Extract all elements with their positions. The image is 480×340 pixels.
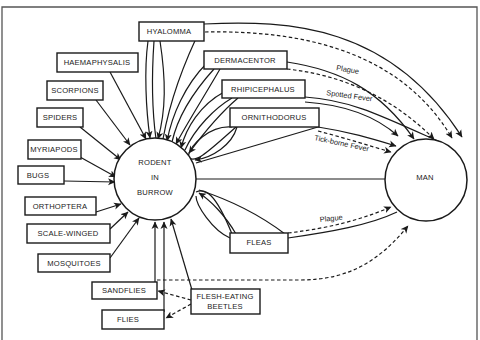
label-scale-winged: SCALE-WINGED (37, 229, 98, 238)
box-myriapods: MYRIAPODS (28, 140, 81, 159)
label-scorpions: SCORPIONS (51, 86, 98, 95)
label-haemaphysalis: HAEMAPHYSALIS (64, 58, 131, 67)
box-dermacentor: DERMACENTOR (204, 51, 287, 69)
label-myriapods: MYRIAPODS (30, 145, 77, 154)
loop-rodent-to-hyalomma (153, 41, 156, 139)
arrow-haemaphysalis (110, 72, 146, 139)
loop-rodent-to-fleas (196, 191, 232, 234)
label-orthoptera: ORTHOPTERA (33, 202, 88, 211)
arrow-beetles-to-flies (166, 304, 191, 318)
arrow-flesh-eating-beetles (171, 219, 192, 290)
label-hyalomma: HYALOMMA (147, 27, 192, 36)
box-spiders: SPIDERS (37, 108, 83, 127)
box-ornithodorus: ORNITHODORUS (230, 108, 319, 127)
arrow-dermacentor-to-rodent-2 (176, 69, 220, 144)
dashed-dermacentor-to-man (287, 69, 434, 139)
box-flies: FLIES (102, 310, 164, 329)
label-flesh-eating-beetles-line2: BEETLES (207, 302, 243, 311)
arrow-fleas-to-rodent (199, 193, 236, 234)
box-scorpions: SCORPIONS (47, 81, 103, 100)
label-spiders: SPIDERS (43, 113, 78, 122)
arrow-mosquitoes (110, 218, 139, 258)
box-hyalomma: HYALOMMA (139, 22, 204, 41)
label-dermacentor: DERMACENTOR (214, 56, 276, 65)
rodent-node: RODENT IN BURROW (114, 138, 196, 220)
box-bugs: BUGS (18, 166, 64, 184)
arrow-scale-winged (110, 212, 128, 229)
edge-label-fleas-plague: Plague (319, 213, 343, 224)
box-sandflies: SANDFLIES (92, 282, 157, 299)
arrow-scorpions (96, 100, 130, 145)
label-mosquitoes: MOSQUITOES (47, 259, 100, 268)
rodent-burrow-diagram: RODENT IN BURROW MAN HYALOMMA HAEMAPHYSA… (0, 0, 480, 340)
rodent-label-line1: RODENT (138, 158, 171, 167)
box-haemaphysalis: HAEMAPHYSALIS (57, 53, 138, 72)
label-flies: FLIES (117, 315, 139, 324)
box-fleas: FLEAS (230, 233, 288, 253)
box-scale-winged: SCALE-WINGED (27, 224, 110, 243)
line-rodent-ornithodorus (196, 127, 318, 163)
label-rhipicephalus: RHIPICEPHALUS (231, 85, 295, 94)
box-mosquitoes: MOSQUITOES (38, 254, 110, 272)
man-label: MAN (416, 173, 433, 182)
arrow-rhipicephalus-to-rodent (181, 92, 224, 148)
arrow-myriapods (80, 157, 116, 177)
arrow-hyalomma-to-rodent-2 (158, 41, 164, 139)
man-node: MAN (385, 139, 467, 221)
rodent-label-line3: BURROW (137, 188, 173, 197)
loop-rodent-to-rhipicephalus (185, 98, 232, 150)
label-flesh-eating-beetles-line1: FLESH-EATING (196, 292, 253, 301)
arrow-orthoptera (96, 204, 121, 212)
rodent-label-line2: IN (151, 173, 159, 182)
edge-label-dermacentor-plague: Plague (336, 63, 360, 76)
label-sandflies: SANDFLIES (102, 286, 146, 295)
arrow-bugs (64, 181, 115, 182)
arrow-hyalomma-to-rodent (146, 41, 150, 138)
loop-ornithodorus-a (188, 127, 232, 157)
box-orthoptera: ORTHOPTERA (25, 197, 96, 215)
arrow-beetles-to-sandflies (158, 291, 191, 300)
arrow-spiders (80, 127, 121, 160)
label-bugs: BUGS (27, 171, 49, 180)
box-rhipicephalus: RHIPICEPHALUS (222, 80, 305, 98)
box-flesh-eating-beetles: FLESH-EATING BEETLES (191, 289, 260, 314)
label-fleas: FLEAS (246, 238, 271, 247)
label-ornithodorus: ORNITHODORUS (242, 113, 307, 122)
